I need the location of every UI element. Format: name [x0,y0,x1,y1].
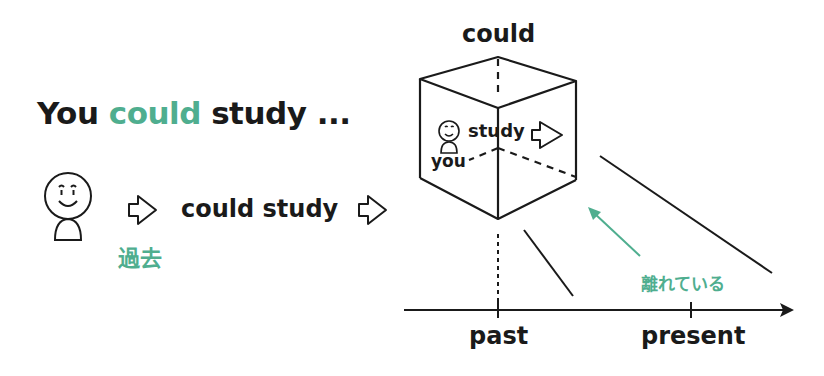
projection-lines [498,156,772,302]
outline-right-arrow-icon [359,196,386,224]
tense-label: 過去 [118,240,162,272]
distance-label: 離れている [641,270,725,295]
tick-label-past: past [469,322,528,350]
tick-label-present: present [641,322,745,350]
smiley-person-icon [45,173,91,240]
timeline-axis [404,302,794,318]
small-person-icon [439,121,459,153]
cube-inner-subject: you [431,151,466,171]
distance-arrow-icon [588,207,640,256]
diagram-graphics [0,0,824,376]
outline-right-arrow-icon [129,196,156,224]
cube-inner-verb: study [468,120,525,141]
verb-phrase: could study [181,195,338,223]
cube-top-label: could [462,20,535,48]
outline-right-arrow-icon [532,122,562,148]
